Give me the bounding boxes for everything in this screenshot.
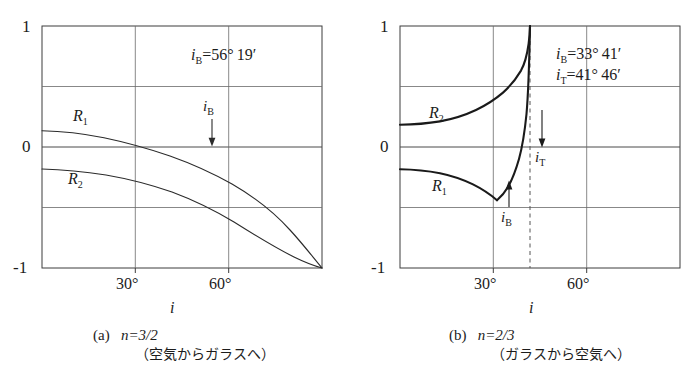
caption-a: (a) n=3/2 （空気からガラスへ）: [93, 325, 275, 364]
caption-b: (b) n=2/3 （ガラスから空気へ）: [449, 325, 631, 364]
curve-r1-b-upper: [497, 26, 530, 200]
arrow-label-critical-b: iT: [535, 150, 545, 168]
annotation-critical-b: iT=41° 46′: [556, 66, 621, 87]
brewster-arrow-head-a: [209, 138, 216, 147]
xtick-label-60-b: 60°: [567, 276, 589, 292]
curve-label-r1-a: R1: [73, 108, 88, 127]
caption-formula-b: n=2/3: [478, 327, 515, 343]
ytick-label-0-b: 0: [380, 138, 389, 155]
curve-label-r2-b: R2: [429, 105, 444, 124]
curve-r1-a: [42, 131, 322, 268]
xaxis-name-a: i: [170, 300, 174, 316]
xtick-label-30-a: 30°: [116, 276, 138, 292]
plot-area-b: [349, 0, 698, 300]
caption-note-b: （ガラスから空気へ）: [491, 345, 631, 364]
arrow-label-brewster-b: iB: [501, 210, 512, 228]
annotation-brewster-b: iB=33° 41′: [556, 45, 621, 66]
panel-b: 1 0 -1 30° 60° i R2 R1 iB=33° 41′ iT=41°…: [349, 0, 698, 370]
ytick-label-0-a: 0: [22, 138, 31, 155]
xtick-label-30-b: 30°: [474, 276, 496, 292]
caption-marker-b: (b): [449, 327, 467, 343]
critical-arrow-head-b: [539, 139, 546, 148]
arrow-label-brewster-a: iB: [203, 99, 214, 117]
ytick-label-minus1-a: -1: [13, 259, 27, 276]
caption-marker-a: (a): [93, 327, 110, 343]
caption-formula-a: n=3/2: [121, 327, 158, 343]
curve-r2-b: [400, 26, 530, 125]
annotation-brewster-a: iB=56° 19′: [191, 46, 256, 67]
figure-fresnel-reflection-coefficients: 1 0 -1 30° 60° i R1 R2 iB=56° 19′ iB (a)…: [0, 0, 698, 370]
ytick-label-1-b: 1: [380, 18, 389, 35]
curve-r1-b-lower: [400, 169, 497, 200]
curve-label-r2-a: R2: [68, 171, 83, 190]
ytick-label-1-a: 1: [22, 18, 31, 35]
xaxis-name-b: i: [529, 300, 533, 316]
curve-r2-a: [42, 169, 322, 268]
curve-label-r1-b: R1: [432, 178, 447, 197]
panel-a: 1 0 -1 30° 60° i R1 R2 iB=56° 19′ iB (a)…: [0, 0, 349, 370]
ytick-label-minus1-b: -1: [371, 259, 385, 276]
plot-area-a: [0, 0, 349, 300]
caption-note-a: （空気からガラスへ）: [135, 345, 275, 364]
xtick-label-60-a: 60°: [209, 276, 231, 292]
